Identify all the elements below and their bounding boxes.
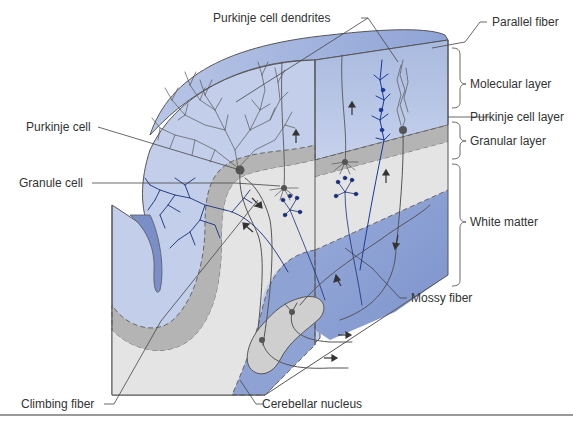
label-cerebellar-nucleus: Cerebellar nucleus [262, 397, 362, 411]
label-molecular-layer: Molecular layer [470, 77, 551, 91]
label-purkinje-cell-layer: Purkinje cell layer [470, 110, 564, 124]
label-climbing-fiber: Climbing fiber [21, 397, 94, 411]
molecular-layer-brace [452, 48, 466, 108]
label-parallel-fiber: Parallel fiber [492, 15, 559, 29]
label-granular-layer: Granular layer [470, 134, 546, 148]
label-purkinje-cell-dendrites: Purkinje cell dendrites [213, 11, 330, 25]
bottom-rule [0, 414, 573, 416]
label-granule-cell: Granule cell [19, 176, 83, 190]
label-mossy-fiber: Mossy fiber [411, 291, 472, 305]
white-matter-brace [452, 164, 466, 286]
arrow-right-icon [324, 355, 337, 361]
label-purkinje-cell: Purkinje cell [26, 120, 91, 134]
granular-layer-brace [452, 122, 466, 159]
label-white-matter: White matter [470, 215, 538, 229]
